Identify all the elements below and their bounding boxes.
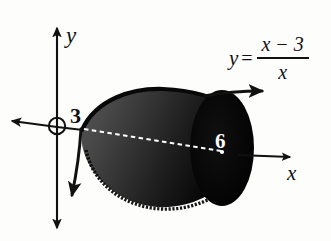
coordinate-axes	[12, 28, 83, 228]
equation-lhs: y	[229, 46, 241, 71]
solid-of-revolution	[81, 89, 254, 209]
math-figure: y x 3 6 y = x − 3 x	[0, 0, 331, 241]
equation-equals-sign: =	[241, 47, 256, 70]
equation-fraction: x − 3 x	[257, 33, 309, 84]
x-axis-label: x	[287, 163, 296, 184]
curve-lower-branch	[72, 129, 81, 195]
y-axis-label: y	[66, 24, 76, 47]
right-bound-label: 6	[215, 131, 226, 152]
equation-denominator: x	[278, 59, 287, 84]
equation-numerator: x − 3	[258, 33, 306, 57]
function-equation: y = x − 3 x	[229, 33, 309, 84]
x-intercept-label: 3	[70, 105, 81, 127]
